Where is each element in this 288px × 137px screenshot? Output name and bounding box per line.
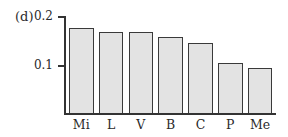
ytick-0-2 — [58, 16, 65, 18]
x-tick-label: C — [185, 117, 215, 132]
x-axis-line — [64, 113, 276, 115]
bar-mi — [69, 28, 94, 113]
bar-v — [129, 32, 154, 113]
ytick-0-1 — [58, 65, 65, 67]
x-tick-label: L — [96, 117, 126, 132]
x-tick-label: P — [215, 117, 245, 132]
ytick-label-0-2: 0.2 — [23, 9, 53, 23]
ytick-label-0-1: 0.1 — [23, 58, 53, 72]
bar-me — [248, 68, 273, 113]
bar-b — [158, 37, 183, 113]
x-tick-label: V — [126, 117, 156, 132]
x-tick-label: Mi — [66, 117, 96, 132]
bar-c — [188, 43, 213, 113]
bar-p — [218, 63, 243, 113]
x-tick-label: B — [156, 117, 186, 132]
bar-l — [99, 32, 124, 113]
x-tick-label: Me — [245, 117, 275, 132]
